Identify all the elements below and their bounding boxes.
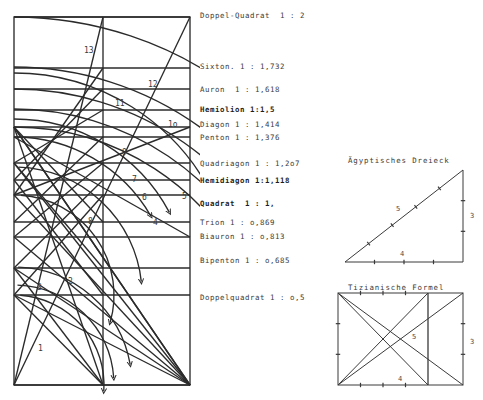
arc-number-2: 2 bbox=[68, 277, 73, 286]
arc-number-11: 11 bbox=[115, 99, 125, 108]
construction-arcs bbox=[14, 17, 200, 391]
diagram-page: 1312111o976584321 Doppel-Quadrat 1 : 2Si… bbox=[0, 0, 483, 400]
ratio-label-4: Diagon 1 : 1,414 bbox=[200, 120, 280, 129]
ratio-label-1: Sixton. 1 : 1,732 bbox=[200, 62, 285, 71]
arc-number-4: 4 bbox=[153, 218, 158, 227]
ratio-label-2: Auron 1 : 1,618 bbox=[200, 85, 280, 94]
egyptian-triangle-figure bbox=[338, 158, 483, 273]
ratio-label-7: Hemidiagon 1:1,118 bbox=[200, 176, 290, 185]
arc-number-1: 1 bbox=[38, 344, 43, 353]
arc-number-3: 3 bbox=[37, 283, 42, 292]
triangle-side-label-4: 4 bbox=[400, 250, 404, 258]
arc-number-6: 6 bbox=[142, 193, 147, 202]
ratio-label-5: Penton 1 : 1,376 bbox=[200, 133, 280, 142]
tizian-side-label-5: 5 bbox=[412, 333, 416, 341]
ratio-label-8: Quadrat 1 : 1, bbox=[200, 199, 275, 208]
ratio-label-12: Doppelquadrat 1 : o,5 bbox=[200, 293, 305, 302]
ratio-label-11: Bipenton 1 : o,685 bbox=[200, 256, 290, 265]
tizian-side-label-3: 3 bbox=[470, 338, 474, 346]
ratio-label-0: Doppel-Quadrat 1 : 2 bbox=[200, 11, 305, 20]
arc-number-7: 7 bbox=[132, 175, 137, 184]
tizian-formula-figure bbox=[330, 288, 475, 398]
ratio-label-6: Quadriagon 1 : 1,2o7 bbox=[200, 159, 300, 168]
tizian-side-label-4: 4 bbox=[398, 375, 402, 383]
ratio-label-3: Hemiolion 1:1,5 bbox=[200, 105, 275, 114]
triangle-side-label-3: 3 bbox=[470, 212, 474, 220]
arc-number-9: 9 bbox=[122, 148, 127, 157]
arc-number-13: 13 bbox=[84, 46, 94, 55]
ratio-label-9: Trion 1 : o,869 bbox=[200, 218, 275, 227]
arc-number-5: 5 bbox=[182, 192, 187, 201]
main-construction-diagram bbox=[0, 0, 200, 400]
ratio-label-10: Biauron 1 : o,813 bbox=[200, 232, 285, 241]
triangle-side-label-5: 5 bbox=[396, 205, 400, 213]
arc-number-8: 8 bbox=[88, 217, 93, 226]
arc-number-1o: 1o bbox=[168, 120, 178, 129]
arc-number-12: 12 bbox=[148, 80, 158, 89]
